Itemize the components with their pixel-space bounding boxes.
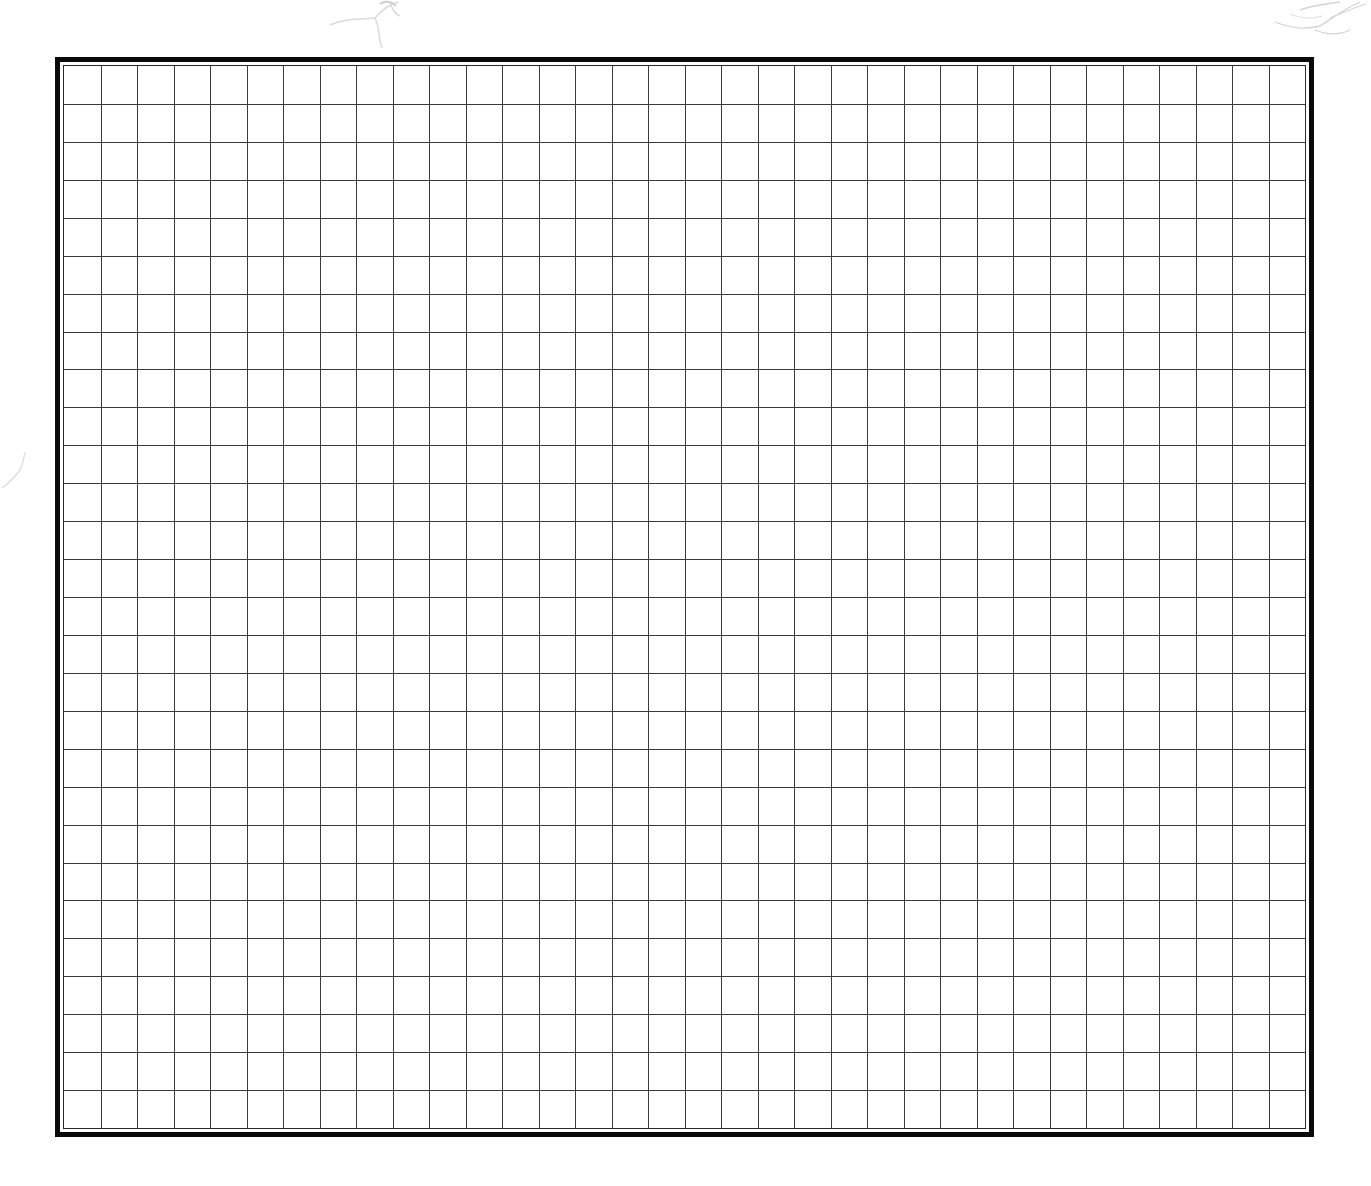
sketch-top-center-decoration xyxy=(320,0,420,55)
sketch-top-right-decoration xyxy=(1270,0,1371,45)
grid-paper xyxy=(64,66,1305,1128)
sketch-left-edge-decoration xyxy=(0,440,30,490)
grid-frame-inner-border xyxy=(63,65,1306,1129)
grid-frame-outer-border xyxy=(55,57,1314,1137)
